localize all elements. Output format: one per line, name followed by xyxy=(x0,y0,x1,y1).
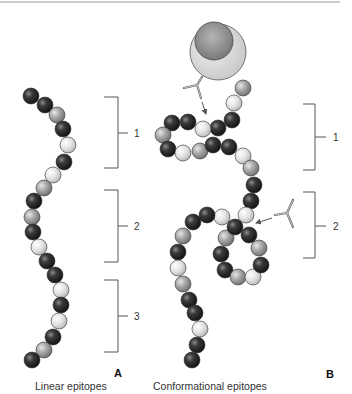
amino-acid-bead xyxy=(195,121,211,137)
linear-peptide-chain xyxy=(23,88,76,368)
amino-acid-bead xyxy=(39,253,55,269)
amino-acid-bead xyxy=(180,114,196,130)
amino-acid-bead xyxy=(24,352,40,368)
amino-acid-bead xyxy=(175,145,191,161)
bracket-label-a-2: 2 xyxy=(134,221,140,232)
caption-conformational-epitopes: Conformational epitopes xyxy=(153,380,267,392)
panel-letter-a: A xyxy=(114,367,122,379)
amino-acid-bead xyxy=(36,180,52,196)
amino-acid-bead xyxy=(251,240,267,256)
bracket-label-b-1: 1 xyxy=(333,132,339,143)
arrow-icon xyxy=(202,102,206,114)
amino-acid-bead xyxy=(47,267,63,283)
amino-acid-bead xyxy=(235,80,251,96)
folded-protein-chain xyxy=(155,80,269,368)
amino-acid-bead xyxy=(160,141,176,157)
amino-acid-bead xyxy=(55,121,71,137)
bracket-b-1 xyxy=(303,104,326,170)
amino-acid-bead xyxy=(214,209,230,225)
bracket-label-a-1: 1 xyxy=(134,128,140,139)
bracket-label-b-2: 2 xyxy=(333,221,339,232)
amino-acid-bead xyxy=(243,193,259,209)
amino-acid-bead xyxy=(24,209,40,225)
bracket-b-2 xyxy=(303,192,326,258)
amino-acid-bead xyxy=(155,127,171,143)
amino-acid-bead xyxy=(26,193,42,209)
amino-acid-bead xyxy=(170,260,186,276)
amino-acid-bead xyxy=(210,120,226,136)
caption-linear-epitopes: Linear epitopes xyxy=(35,380,107,392)
amino-acid-bead xyxy=(192,321,208,337)
amino-acid-bead xyxy=(213,246,229,262)
amino-acid-bead xyxy=(53,282,69,298)
amino-acid-bead xyxy=(227,219,243,235)
amino-acid-bead xyxy=(170,244,186,260)
b-cell xyxy=(190,22,246,80)
amino-acid-bead xyxy=(184,352,200,368)
bracket-a-2 xyxy=(104,190,128,262)
panel-a: 1 2 3 A Linear epitopes xyxy=(23,88,140,392)
amino-acid-bead xyxy=(60,137,76,153)
amino-acid-bead xyxy=(189,337,205,353)
amino-acid-bead xyxy=(25,224,41,240)
cell-nucleus xyxy=(195,22,233,60)
amino-acid-bead xyxy=(175,228,191,244)
panel-b: 1 2 B Conformational epitopes xyxy=(153,22,339,392)
amino-acid-bead xyxy=(53,297,69,313)
bracket-a-1 xyxy=(104,97,128,168)
amino-acid-bead xyxy=(31,239,47,255)
amino-acid-bead xyxy=(185,214,201,230)
amino-acid-bead xyxy=(205,137,221,153)
amino-acid-bead xyxy=(224,112,240,128)
bracket-label-a-3: 3 xyxy=(134,311,140,322)
amino-acid-bead xyxy=(238,207,254,223)
amino-acid-bead xyxy=(199,207,215,223)
amino-acid-bead xyxy=(23,88,39,104)
amino-acid-bead xyxy=(187,305,203,321)
epitope-diagram: 1 2 3 A Linear epitopes xyxy=(0,0,352,394)
amino-acid-bead xyxy=(221,139,237,155)
amino-acid-bead xyxy=(253,257,269,273)
bracket-a-3 xyxy=(104,280,128,352)
amino-acid-bead xyxy=(175,276,191,292)
arrow-icon xyxy=(256,218,272,223)
amino-acid-bead xyxy=(226,95,242,111)
amino-acid-bead xyxy=(241,227,257,243)
amino-acid-bead xyxy=(56,154,72,170)
amino-acid-bead xyxy=(243,160,259,176)
amino-acid-bead xyxy=(49,107,65,123)
amino-acid-bead xyxy=(230,269,246,285)
panel-letter-b: B xyxy=(326,368,334,380)
amino-acid-bead xyxy=(51,313,67,329)
amino-acid-bead xyxy=(246,177,262,193)
